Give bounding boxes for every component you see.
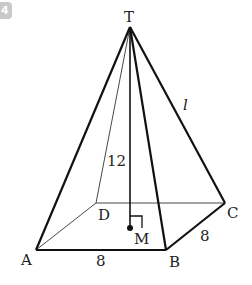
label-A: A xyxy=(20,251,32,269)
label-C: C xyxy=(227,204,238,222)
pyramid-diagram: T A B C D M 12 8 8 l xyxy=(0,0,252,285)
label-base-bc: 8 xyxy=(200,227,210,245)
edge-BC xyxy=(166,203,225,250)
label-M: M xyxy=(134,230,149,248)
foot-point-M xyxy=(127,225,133,231)
edge-TD xyxy=(96,27,130,203)
height-line xyxy=(130,27,142,228)
edge-TA xyxy=(36,27,130,250)
label-T: T xyxy=(124,8,134,26)
label-height: 12 xyxy=(107,152,126,170)
label-B: B xyxy=(169,253,180,271)
label-D: D xyxy=(98,206,110,224)
label-lateral-edge: l xyxy=(183,96,188,114)
label-base-ab: 8 xyxy=(96,252,106,270)
